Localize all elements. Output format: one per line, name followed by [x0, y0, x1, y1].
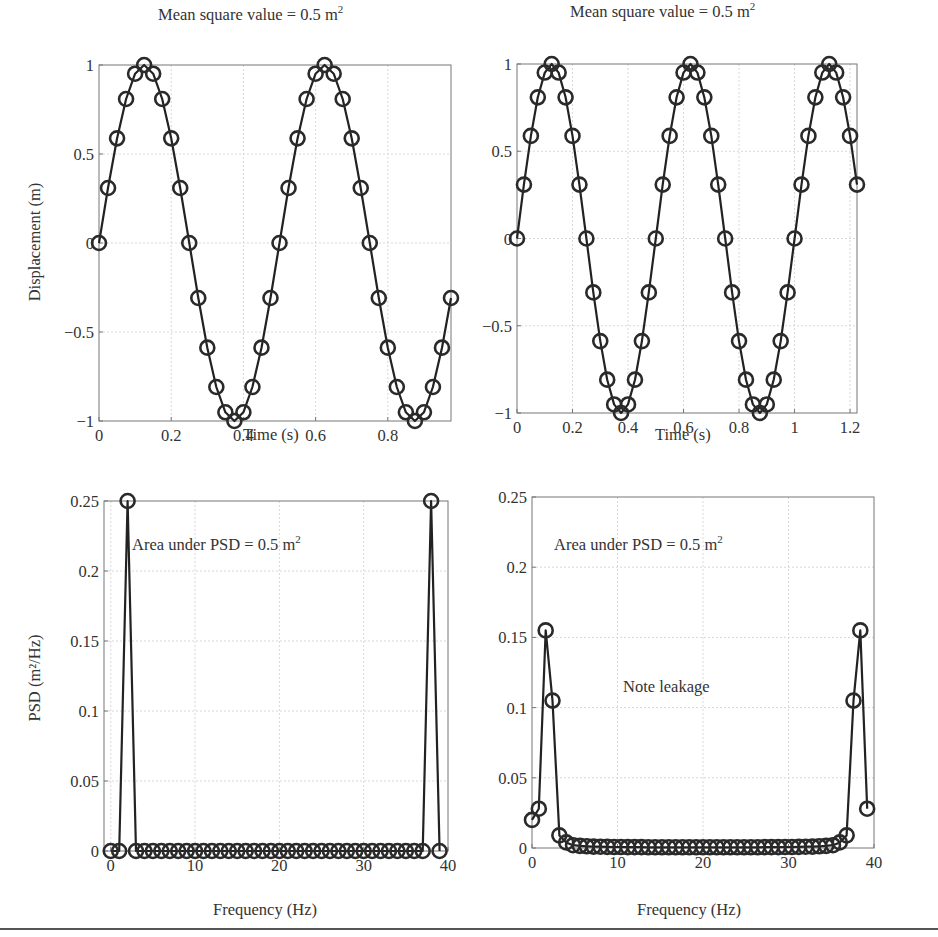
y-tick-label: 0 — [519, 839, 527, 858]
xlabel-bottom-left: Frequency (Hz) — [213, 900, 317, 920]
y-tick-label: 0 — [91, 842, 99, 861]
y-tick-label: 0.15 — [70, 632, 99, 651]
x-tick-label: 0 — [95, 426, 103, 445]
y-tick-label: 1 — [86, 56, 94, 75]
title-top-left: Mean square value = 0.5 m2 — [158, 3, 343, 25]
y-tick-label: −0.5 — [64, 323, 94, 342]
y-tick-label: 0.25 — [498, 488, 527, 507]
y-tick-label: 0.05 — [70, 772, 99, 791]
xlabel-top-right: Time (s) — [655, 425, 711, 445]
x-tick-label: 40 — [866, 853, 883, 872]
annotation-text: Area under PSD = 0.5 m — [554, 535, 717, 554]
annotation-area-bottom-right: Area under PSD = 0.5 m2 — [554, 533, 723, 555]
annotation-note-leakage: Note leakage — [623, 677, 710, 697]
title-text: Mean square value = 0.5 m — [570, 2, 750, 21]
title-superscript: 2 — [338, 3, 344, 15]
figure-canvas: 00.20.40.60.8−1−0.500.51 00.20.40.60.811… — [0, 0, 938, 937]
y-tick-label: −1 — [76, 412, 94, 431]
displacement-50-samples-plot: 00.20.40.60.811.2−1−0.500.51 — [482, 55, 864, 437]
x-tick-label: 1 — [790, 418, 798, 437]
y-tick-label: 0.15 — [498, 628, 527, 647]
annotation-superscript: 2 — [717, 533, 723, 545]
title-superscript: 2 — [750, 0, 756, 12]
x-tick-label: 30 — [780, 853, 797, 872]
title-top-right: Mean square value = 0.5 m2 — [570, 0, 755, 22]
y-tick-label: 1 — [504, 55, 512, 74]
x-tick-label: 0.2 — [161, 426, 182, 445]
x-tick-label: 0.8 — [729, 418, 750, 437]
displacement-40-samples-plot: 00.20.40.60.8−1−0.500.51 — [64, 56, 458, 445]
x-tick-label: 0.2 — [562, 418, 583, 437]
annotation-area-bottom-left: Area under PSD = 0.5 m2 — [132, 533, 301, 555]
x-tick-label: 20 — [695, 853, 712, 872]
x-tick-label: 0 — [528, 853, 536, 872]
annotation-text: Area under PSD = 0.5 m — [132, 535, 295, 554]
y-tick-label: 0.5 — [491, 142, 512, 161]
ylabel-bottom-left: PSD (m²/Hz) — [25, 618, 45, 738]
x-tick-label: 10 — [609, 853, 626, 872]
y-tick-label: −1 — [494, 404, 512, 423]
xlabel-bottom-right: Frequency (Hz) — [637, 900, 741, 920]
x-tick-label: 0.8 — [378, 426, 399, 445]
y-tick-label: 0.1 — [506, 699, 527, 718]
ylabel-text: PSD (m²/Hz) — [25, 635, 44, 722]
figure: 00.20.40.60.8−1−0.500.51 00.20.40.60.811… — [0, 0, 938, 937]
title-text: Mean square value = 0.5 m — [158, 5, 338, 24]
y-tick-label: 0.1 — [78, 702, 99, 721]
y-tick-label: 0.05 — [498, 769, 527, 788]
ylabel-top-left: Displacement (m) — [25, 172, 45, 312]
y-tick-label: 0.25 — [70, 492, 99, 511]
xlabel-top-left: Time (s) — [243, 425, 299, 445]
x-tick-label: 1.2 — [840, 418, 861, 437]
x-tick-label: 0 — [513, 418, 521, 437]
x-tick-label: 0.6 — [305, 426, 326, 445]
y-tick-label: 0.2 — [78, 562, 99, 581]
annotation-superscript: 2 — [295, 533, 301, 545]
bottom-rule — [0, 928, 938, 930]
y-tick-label: −0.5 — [482, 317, 512, 336]
y-tick-label: 0.5 — [73, 145, 94, 164]
y-tick-label: 0.2 — [506, 558, 527, 577]
